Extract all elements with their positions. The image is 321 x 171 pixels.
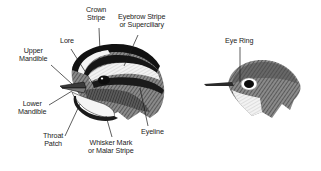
label-whisker-mark: Whisker Mark or Malar Stripe <box>88 139 134 156</box>
beak-right <box>204 82 234 86</box>
left-bird-head-illustration <box>60 44 164 121</box>
lower-mandible-shape <box>62 88 86 93</box>
leader-lower-mandible <box>49 91 72 105</box>
eye-highlight <box>101 78 103 80</box>
eye-shape <box>98 76 110 85</box>
leader-upper-mandible <box>51 65 72 84</box>
label-eye-ring: Eye Ring <box>225 37 253 45</box>
label-throat-patch: Throat Patch <box>43 132 63 149</box>
label-lower-mandible: Lower Mandible <box>18 100 46 117</box>
upper-mandible-shape <box>60 82 86 88</box>
leader-throat-patch <box>65 104 80 136</box>
eye-shape-right <box>244 80 254 88</box>
label-lore: Lore <box>60 37 74 45</box>
label-upper-mandible: Upper Mandible <box>19 47 47 64</box>
label-crown-stripe: Crown Stripe <box>86 6 106 23</box>
label-eyeline: Eyeline <box>141 128 164 136</box>
right-bird-head-illustration <box>204 60 301 118</box>
label-eyebrow-stripe: Eyebrow Stripe or Superciliary <box>118 13 165 30</box>
